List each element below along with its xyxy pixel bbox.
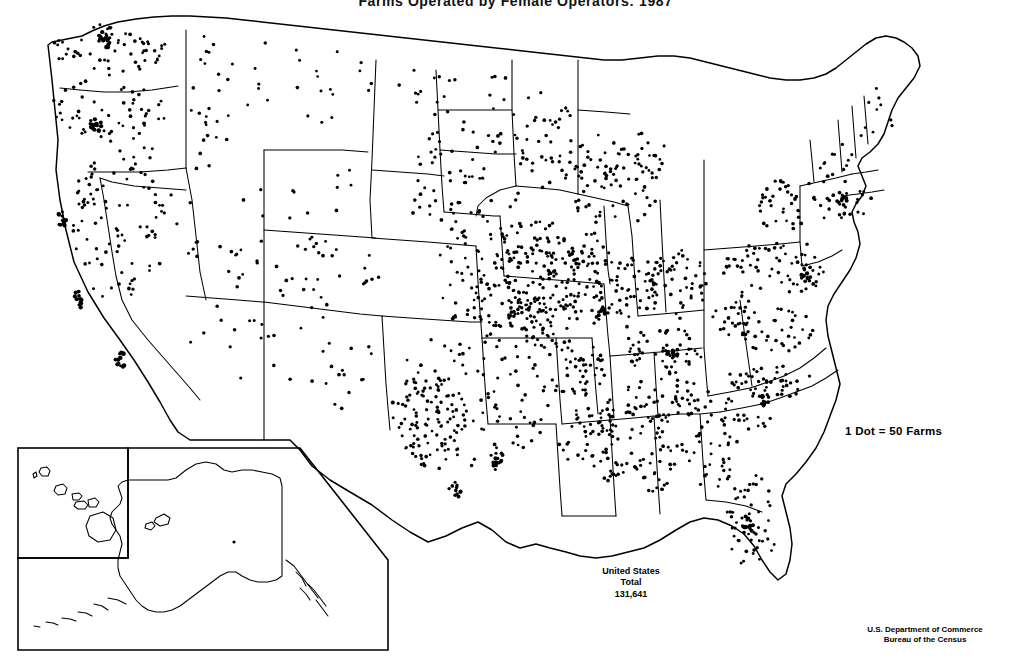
dot (638, 306, 641, 309)
dot (611, 435, 615, 439)
dot (584, 394, 587, 397)
dot (591, 262, 595, 266)
dot (660, 162, 664, 166)
dot (770, 268, 773, 271)
dot (102, 184, 105, 187)
dot (794, 392, 798, 396)
dot (791, 311, 794, 314)
dot (559, 155, 562, 158)
dot (347, 391, 350, 394)
dot (429, 150, 432, 153)
dot (805, 242, 809, 246)
dot (142, 88, 145, 91)
dot (736, 264, 740, 268)
dot (669, 449, 672, 452)
dot (480, 307, 483, 310)
dot (160, 44, 163, 47)
dot (198, 152, 202, 156)
dot (639, 380, 643, 384)
dot (625, 411, 628, 414)
dot (606, 479, 610, 483)
dot (788, 290, 791, 293)
dot (667, 446, 670, 449)
dot (569, 303, 572, 306)
dot (493, 75, 497, 79)
dot (796, 283, 799, 286)
dot (218, 245, 222, 249)
dot (62, 220, 66, 224)
dot (711, 315, 714, 318)
dot (623, 267, 626, 270)
dot (586, 155, 590, 159)
dot (146, 40, 149, 43)
dot (779, 246, 782, 249)
dot (587, 255, 590, 258)
dot (538, 297, 541, 300)
dot (579, 369, 582, 372)
dot (426, 442, 429, 445)
dot (98, 58, 102, 62)
dot (763, 389, 766, 392)
dot (190, 109, 193, 112)
dot (134, 162, 137, 165)
dot (205, 115, 208, 118)
dot (110, 26, 113, 29)
dot (77, 303, 80, 306)
dot (558, 118, 561, 121)
dot (607, 251, 610, 254)
dot (683, 329, 686, 332)
dot (496, 419, 500, 423)
dot (661, 350, 664, 353)
dot (641, 351, 644, 354)
dot (581, 375, 584, 378)
dot (108, 243, 111, 246)
dot (814, 284, 817, 287)
dot (132, 126, 135, 129)
dot (539, 275, 542, 278)
dot (478, 177, 481, 180)
dot (546, 255, 549, 258)
dot (754, 483, 757, 486)
dot (131, 288, 134, 291)
dot (742, 531, 746, 535)
dot (132, 137, 135, 140)
dot (86, 238, 89, 241)
dot (331, 93, 334, 96)
dot (589, 364, 592, 367)
dot (550, 254, 554, 258)
dot (500, 232, 504, 236)
dot (458, 353, 461, 356)
dot (561, 349, 564, 352)
dot (587, 203, 591, 207)
dot (819, 266, 822, 269)
dot (742, 525, 745, 528)
dot (169, 193, 172, 196)
dot (733, 306, 736, 309)
dot (418, 162, 422, 166)
dot (755, 370, 758, 373)
dot (784, 252, 787, 255)
dot (566, 458, 569, 461)
dot (155, 216, 158, 219)
dot (496, 376, 499, 379)
dot (770, 549, 773, 552)
dot (57, 57, 60, 60)
dot (145, 225, 148, 228)
dot (53, 41, 57, 45)
dot (100, 30, 104, 34)
dot (404, 447, 407, 450)
dot (706, 420, 709, 423)
dot (698, 432, 702, 436)
dot (569, 150, 573, 154)
dot (264, 41, 268, 45)
dot (545, 159, 548, 162)
dot (770, 349, 773, 352)
dot (786, 190, 790, 194)
dot (105, 207, 108, 210)
dot (431, 430, 434, 433)
dot (599, 309, 603, 313)
dot (728, 373, 731, 376)
dot (773, 543, 776, 546)
dot (470, 286, 473, 289)
dot (584, 293, 587, 296)
